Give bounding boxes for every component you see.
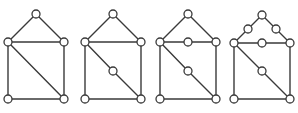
graph-vertex [258, 67, 266, 75]
graph-edge [262, 71, 290, 99]
graph-3 [156, 10, 220, 103]
graph-edge [234, 43, 262, 71]
graph-edge [8, 14, 36, 42]
graph-edge [85, 14, 113, 42]
graph-2 [81, 10, 145, 103]
graph-vertex [184, 10, 192, 18]
graph-vertex [32, 10, 40, 18]
graph-edge [160, 42, 188, 71]
graph-vertex [137, 95, 145, 103]
graph-1 [4, 10, 68, 103]
graph-edge [188, 71, 216, 99]
graph-vertex [286, 95, 294, 103]
graph-vertex [81, 95, 89, 103]
graph-edge [8, 42, 64, 99]
graph-vertex [230, 95, 238, 103]
graph-4 [230, 11, 294, 103]
graph-vertex [184, 67, 192, 75]
graph-edge [113, 71, 141, 99]
graph-vertex [184, 38, 192, 46]
graph-vertex [258, 11, 266, 19]
graph-vertex [137, 38, 145, 46]
graph-vertex [81, 38, 89, 46]
graph-vertex [4, 38, 12, 46]
graph-vertex [156, 38, 164, 46]
graph-vertex [244, 25, 252, 33]
graph-vertex [60, 38, 68, 46]
graph-vertex [109, 67, 117, 75]
graph-vertex [4, 95, 12, 103]
graph-edge [160, 14, 188, 42]
graph-vertex [156, 95, 164, 103]
graph-vertex [230, 39, 238, 47]
graph-vertex [212, 38, 220, 46]
graph-edge [36, 14, 64, 42]
graph-vertex [212, 95, 220, 103]
graph-vertex [60, 95, 68, 103]
graph-edge [113, 14, 141, 42]
graph-diagram [0, 0, 298, 113]
graph-vertex [286, 39, 294, 47]
graph-vertex [272, 25, 280, 33]
graph-edge [188, 14, 216, 42]
graph-vertex [258, 39, 266, 47]
graph-edge [85, 42, 113, 71]
graph-vertex [109, 10, 117, 18]
